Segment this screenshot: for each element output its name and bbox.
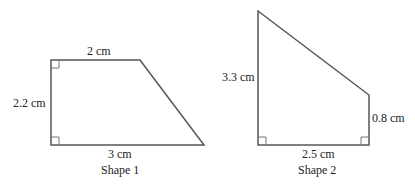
diagram-canvas <box>0 0 415 185</box>
shape-1 <box>51 60 204 145</box>
shape-2-right-label: 0.8 cm <box>372 112 405 124</box>
right-angle-marker-bottom-left <box>51 137 59 145</box>
shape-1-caption: Shape 1 <box>101 164 139 176</box>
shape-2-left-label: 3.3 cm <box>222 71 255 83</box>
shape-2-outline <box>258 11 369 145</box>
right-angle-marker-bottom-right <box>361 137 369 145</box>
shape-2-bottom-label: 2.5 cm <box>302 148 335 160</box>
shape-2-caption: Shape 2 <box>298 164 336 176</box>
shape-1-left-label: 2.2 cm <box>13 97 46 109</box>
shape-1-outline <box>51 60 204 145</box>
right-angle-marker-top-left <box>51 60 59 68</box>
shape-1-bottom-label: 3 cm <box>108 148 132 160</box>
shape-1-top-label: 2 cm <box>87 45 111 57</box>
shape-2 <box>258 11 369 145</box>
right-angle-marker-bottom-left <box>258 137 266 145</box>
